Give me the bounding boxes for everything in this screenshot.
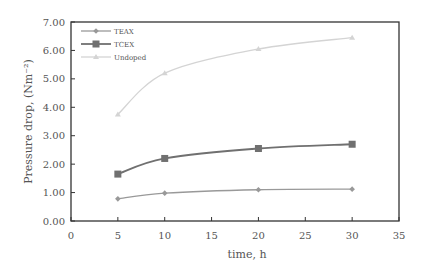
- series-undoped: [115, 35, 355, 117]
- x-tick-label: 0: [68, 230, 74, 241]
- x-tick-label: 10: [158, 230, 171, 241]
- marker-triangle-icon: [349, 35, 355, 40]
- y-tick-label: 5.00: [43, 73, 65, 84]
- marker-square-icon: [93, 41, 100, 48]
- x-tick-label: 35: [393, 230, 406, 241]
- marker-square-icon: [255, 145, 262, 152]
- legend-item-teax: TEAX: [81, 28, 134, 36]
- legend-item-tcex: TCEX: [81, 41, 134, 49]
- x-tick-label: 15: [205, 230, 218, 241]
- y-axis-ticks: 0.001.002.003.004.005.006.007.00: [43, 17, 75, 227]
- y-tick-label: 6.00: [43, 45, 65, 56]
- marker-diamond-icon: [162, 190, 168, 196]
- legend: TEAXTCEXUndoped: [81, 28, 147, 62]
- marker-diamond-icon: [115, 196, 121, 202]
- y-tick-label: 1.00: [43, 187, 65, 198]
- plot-frame: [71, 22, 399, 221]
- x-tick-label: 5: [115, 230, 121, 241]
- legend-label: Undoped: [114, 54, 147, 62]
- y-tick-label: 3.00: [43, 130, 65, 141]
- marker-diamond-icon: [256, 187, 262, 193]
- x-tick-label: 20: [252, 230, 265, 241]
- y-tick-label: 4.00: [43, 102, 65, 113]
- marker-diamond-icon: [93, 28, 99, 34]
- marker-square-icon: [161, 155, 168, 162]
- marker-square-icon: [349, 141, 356, 148]
- series-layer: [114, 35, 355, 202]
- series-teax: [115, 186, 355, 201]
- y-tick-label: 7.00: [43, 17, 65, 28]
- marker-diamond-icon: [349, 186, 355, 192]
- legend-label: TCEX: [114, 41, 134, 49]
- x-tick-label: 30: [346, 230, 359, 241]
- marker-square-icon: [114, 171, 121, 178]
- y-tick-label: 2.00: [43, 159, 65, 170]
- y-tick-label: 0.00: [43, 216, 65, 227]
- x-tick-label: 25: [299, 230, 312, 241]
- series-tcex: [114, 141, 355, 178]
- legend-item-undoped: Undoped: [81, 54, 147, 62]
- line-chart: 0.001.002.003.004.005.006.007.00 0510152…: [0, 0, 423, 274]
- y-axis-title: Pressure drop, (Nm⁻²): [22, 59, 35, 184]
- x-axis-title: time, h: [228, 248, 267, 261]
- legend-label: TEAX: [114, 28, 134, 36]
